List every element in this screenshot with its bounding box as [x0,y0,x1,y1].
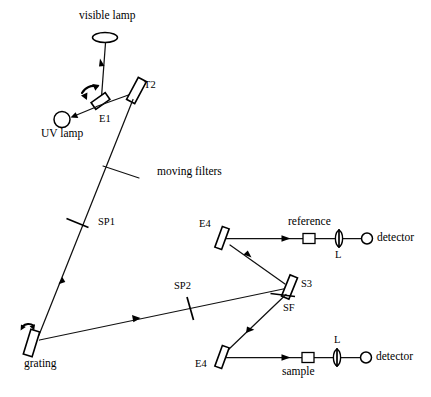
lens-lower [333,348,340,367]
beam-visible-to-e1 [102,43,106,97]
label-sf: SF [283,303,295,314]
arrowhead-t2-to-grating [59,277,66,284]
label-e4-upper: E4 [199,219,211,230]
label-detector-upper: detector [377,232,414,244]
label-sp2: SP2 [174,281,191,292]
label-e1: E1 [99,114,111,125]
sample-cell [302,353,314,363]
label-sample: sample [282,366,315,378]
arrowhead-s3-to-e4-upper [244,251,252,258]
label-uv-lamp: UV lamp [41,128,83,140]
detector-lower [361,352,372,363]
reference-cell [303,234,315,244]
arrowhead-s3-to-e4-lower [246,326,254,333]
moving-filters-leader [103,166,139,178]
label-visible-lamp: visible lamp [79,10,136,22]
grating [23,329,39,357]
detector-upper [362,233,373,244]
optical-diagram: visible lamp UV lamp E1 T2 moving filter… [0,0,431,397]
label-lens-lower: L [334,335,340,346]
e1-mirror [91,93,110,110]
label-grating: grating [24,358,57,370]
beam-s3-to-e4-upper [230,245,285,284]
lens-upper [335,229,342,248]
e1-rotation-arrow [81,84,100,100]
label-t2: T2 [144,80,156,91]
uv-lamp-bulb [54,112,70,128]
label-sp1: SP1 [98,217,115,228]
label-reference: reference [288,216,331,228]
arrowhead-e1-rot-cw [92,84,99,91]
optics-canvas [0,0,431,397]
beam-s3-to-e4-lower [228,295,286,351]
beam-grating-to-s3 [40,288,289,340]
label-moving-filters: moving filters [157,166,222,178]
arrowhead-grating-to-s3 [132,315,141,322]
arrowhead-sample-branch [282,354,291,360]
label-lens-upper: L [335,250,341,261]
visible-lamp-bulb [93,33,118,43]
label-s3: S3 [301,279,312,290]
label-e4-lower: E4 [195,359,207,370]
label-detector-lower: detector [376,351,413,363]
arrowhead-reference-branch [282,235,291,241]
